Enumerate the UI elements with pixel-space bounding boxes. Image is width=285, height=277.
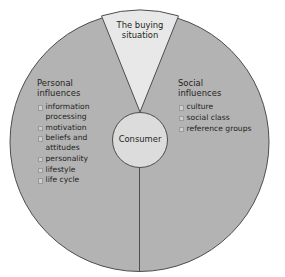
consumer-center-circle-shape (113, 113, 168, 168)
circle-diagram-graphics (0, 0, 285, 277)
diagram-canvas: The buying situation Consumer Personal i… (0, 0, 285, 277)
